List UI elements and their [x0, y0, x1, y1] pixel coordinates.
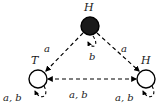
edge-label-left-diagonal: a: [44, 44, 50, 54]
diagram-canvas: H T H a a b a, b a, b a, b: [0, 0, 167, 110]
node-bottom-right-open: [137, 70, 155, 88]
node-bottom-left-open: [29, 70, 47, 88]
self-loop-top-node: [88, 36, 96, 46]
node-label-top: H: [84, 2, 94, 13]
node-label-bottom-right: H: [141, 55, 151, 66]
edge-label-right-diagonal: a: [121, 44, 127, 54]
edge-label-top-self-loop: b: [89, 52, 95, 62]
node-top-filled: [81, 17, 99, 35]
edge-top-to-bottom-left: [46, 33, 83, 71]
edge-label-bottom-edge: a, b: [69, 90, 88, 100]
edge-top-to-bottom-right: [97, 33, 139, 71]
node-label-bottom-left: T: [31, 55, 38, 66]
edge-label-left-self-loop: a, b: [3, 93, 22, 103]
edge-label-right-self-loop: a, b: [115, 93, 134, 103]
